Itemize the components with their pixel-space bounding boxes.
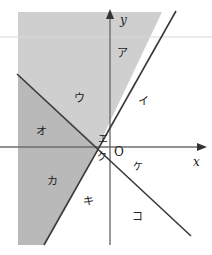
region-label-ko: コ [132,211,143,222]
x-axis-label: x [193,156,200,168]
region-label-e: エ [98,134,108,144]
origin-label: O [114,146,124,158]
region-label-ka: カ [47,176,58,187]
region-label-a: ア [117,48,128,59]
y-axis-label: y [120,14,127,26]
region-label-ki: キ [83,196,94,207]
region-label-ke: ケ [133,162,143,172]
region-label-o: オ [36,126,47,137]
x-axis-arrowhead [197,143,207,151]
coordinate-plane-figure: x y O ア イ ウ エ オ カ キ ク ケ コ [0,0,212,255]
figure-canvas [0,0,212,255]
region-label-u: ウ [74,93,85,104]
region-label-ku: ク [97,152,107,162]
region-label-i: イ [138,96,149,107]
